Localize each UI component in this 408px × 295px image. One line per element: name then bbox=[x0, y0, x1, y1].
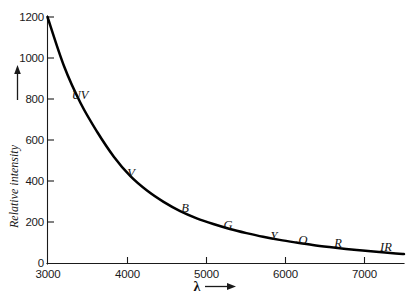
x-tick-label-3000: 3000 bbox=[36, 268, 61, 280]
x-axis-ticks bbox=[128, 257, 365, 264]
chart-figure: 1200 1000 800 600 400 200 0 3000 4000 50… bbox=[0, 0, 408, 295]
region-label-r: R bbox=[333, 236, 342, 250]
y-axis-ticks bbox=[48, 17, 55, 222]
right-arrow-icon bbox=[227, 283, 236, 290]
up-arrow-icon bbox=[14, 65, 21, 74]
x-axis-title-group: λ bbox=[194, 279, 236, 294]
region-label-ir: IR bbox=[379, 240, 392, 254]
region-label-y: Y bbox=[271, 229, 280, 243]
spectrum-line-chart: 1200 1000 800 600 400 200 0 3000 4000 50… bbox=[0, 0, 408, 295]
y-tick-label-200: 200 bbox=[25, 216, 44, 228]
x-axis-title: λ bbox=[194, 279, 201, 294]
y-tick-label-600: 600 bbox=[25, 134, 44, 146]
y-axis-title-group: Relative intensity bbox=[7, 65, 21, 229]
y-tick-label-1200: 1200 bbox=[19, 11, 44, 23]
region-label-b: B bbox=[181, 201, 189, 215]
y-tick-label-1000: 1000 bbox=[19, 52, 44, 64]
region-label-o: O bbox=[298, 233, 307, 247]
y-tick-label-800: 800 bbox=[25, 93, 44, 105]
y-tick-label-400: 400 bbox=[25, 175, 44, 187]
y-axis-title: Relative intensity bbox=[7, 144, 21, 229]
region-label-v: V bbox=[127, 166, 136, 180]
region-label-uv: UV bbox=[72, 88, 90, 102]
region-label-g: G bbox=[223, 218, 232, 232]
x-tick-label-7000: 7000 bbox=[352, 268, 377, 280]
x-tick-label-6000: 6000 bbox=[273, 268, 298, 280]
x-tick-label-4000: 4000 bbox=[115, 268, 140, 280]
